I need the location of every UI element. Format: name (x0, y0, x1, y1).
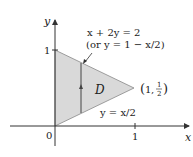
y-axis-label: y (43, 15, 51, 28)
region-label: D (94, 83, 105, 97)
diagram-canvas: y x 0 1 1 D x + 2y = 2 (or y = 1 − x/2) … (0, 0, 193, 157)
x-tick-label: 1 (132, 131, 138, 142)
svg-text:): ) (163, 81, 168, 96)
x-axis-label: x (185, 131, 192, 144)
upper-line-alt-equation: (or y = 1 − x/2) (86, 39, 165, 50)
svg-text:2: 2 (157, 90, 161, 98)
svg-text:1: 1 (157, 81, 161, 89)
origin-label: 0 (46, 130, 52, 141)
upper-line-equation: x + 2y = 2 (87, 27, 141, 38)
y-tick-label: 1 (44, 45, 50, 56)
vertex-label: ( 1 , 1 2 ) (140, 81, 168, 98)
lower-line-equation: y = x/2 (99, 107, 136, 118)
svg-text:,: , (151, 84, 154, 95)
